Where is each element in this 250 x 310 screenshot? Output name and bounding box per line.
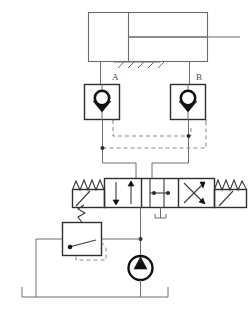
- cylinder-assembly: [89, 13, 241, 69]
- relief-valve-arrow-head: [68, 245, 72, 249]
- pilot-lines: [101, 120, 207, 151]
- pressure-line: [102, 208, 143, 257]
- pump: [129, 256, 153, 297]
- dcv-left-lever: [76, 191, 90, 206]
- check-valve-a-seat: [93, 101, 111, 112]
- dcv-envelope-right: [184, 182, 205, 204]
- label-port-a: A: [112, 72, 119, 82]
- line-a-to-dcv: [103, 163, 137, 178]
- dcv-left-spring: [73, 180, 105, 190]
- dcv-right-lever: [219, 191, 233, 206]
- dcv-left-actuator: [73, 180, 105, 208]
- line-b-to-dcv: [152, 163, 189, 178]
- work-lines: [103, 120, 189, 179]
- check-valve-b: [171, 85, 206, 120]
- cylinder-mount-hatching: [114, 62, 164, 68]
- pressure-relief-valve: [36, 205, 106, 297]
- relief-valve-body: [63, 223, 102, 256]
- pilot-line-to-valve-b: [113, 120, 191, 136]
- check-valve-b-symbol: [179, 91, 197, 112]
- relief-valve-arrow-line: [69, 240, 96, 247]
- junction-pilot-a: [101, 146, 105, 150]
- dcv-tank-drain: [155, 208, 166, 219]
- dcv-right-actuator: [215, 180, 247, 208]
- junction-pilot-b: [187, 134, 191, 138]
- dcv-envelope-left: [113, 181, 134, 205]
- dcv-right-spring: [215, 180, 247, 190]
- dcv-envelope-center: [150, 179, 170, 208]
- check-valve-a-symbol: [93, 91, 111, 112]
- directional-control-valve: [73, 179, 247, 219]
- check-valve-b-seat: [179, 101, 197, 112]
- label-port-b: B: [196, 72, 202, 82]
- circuit-canvas: A B: [0, 0, 250, 310]
- hydraulic-circuit-diagram: A B: [0, 0, 250, 310]
- dcv-right-actuator-box: [215, 190, 247, 208]
- pilot-line-to-valve-a: [103, 122, 207, 148]
- reservoir: [22, 287, 168, 297]
- check-valve-a: [85, 85, 120, 120]
